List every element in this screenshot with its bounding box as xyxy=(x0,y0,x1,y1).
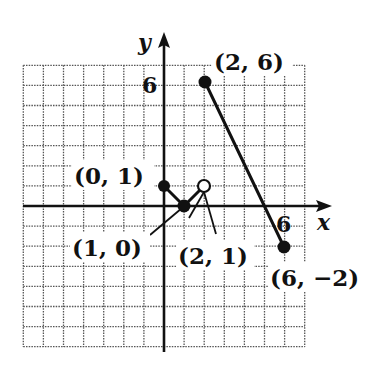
leader-1-0 xyxy=(150,208,182,235)
points xyxy=(158,76,291,254)
label-point-2-1: (2, 1) xyxy=(178,242,248,269)
open-point-2-1 xyxy=(198,180,210,192)
leader-lines xyxy=(150,192,216,235)
coordinate-plane: x y 6 6 (0, 1) (1, 0) (2, 1) (2, 6) (6, … xyxy=(0,0,389,365)
closed-point-0-1 xyxy=(158,180,170,192)
closed-point-1-0 xyxy=(178,200,191,213)
x-axis-label: x xyxy=(316,209,331,235)
closed-point-2-6 xyxy=(199,76,212,89)
closed-point-6-m2 xyxy=(278,241,291,254)
label-point-1-0: (1, 0) xyxy=(72,234,142,261)
y-tick-label-6: 6 xyxy=(142,72,157,98)
label-point-2-6: (2, 6) xyxy=(214,48,284,75)
leader-2-1-b xyxy=(204,192,216,234)
y-axis-label: y xyxy=(137,29,153,55)
axes xyxy=(23,32,332,352)
label-point-6-m2: (6, −2) xyxy=(270,264,359,291)
label-point-0-1: (0, 1) xyxy=(74,162,144,189)
